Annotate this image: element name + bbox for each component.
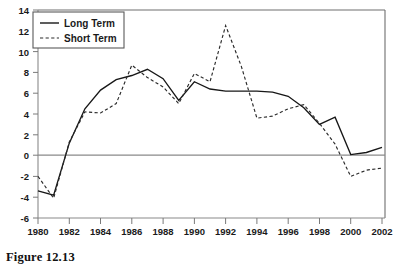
x-axis-ticks bbox=[38, 218, 382, 224]
x-tick-label: 1990 bbox=[184, 226, 205, 237]
y-tick-label: 6 bbox=[24, 88, 29, 99]
y-axis-tick-labels: 14 12 10 8 6 4 2 0 -2 -4 -6 bbox=[18, 5, 29, 224]
line-chart: 14 12 10 8 6 4 2 0 -2 -4 -6 bbox=[0, 0, 403, 248]
chart-legend: Long Term Short Term bbox=[33, 12, 124, 48]
legend-label-long-term: Long Term bbox=[64, 18, 115, 29]
x-tick-label: 1986 bbox=[121, 226, 142, 237]
x-tick-label: 1988 bbox=[153, 226, 174, 237]
y-tick-label: 12 bbox=[18, 26, 29, 37]
x-tick-label: 2000 bbox=[340, 226, 361, 237]
y-tick-label: 0 bbox=[24, 150, 29, 161]
series-line-long-term bbox=[38, 69, 382, 195]
series-line-short-term bbox=[38, 26, 382, 199]
y-tick-label: -4 bbox=[21, 192, 30, 203]
x-tick-label: 1982 bbox=[59, 226, 80, 237]
x-tick-label: 1992 bbox=[215, 226, 236, 237]
y-tick-label: 2 bbox=[24, 130, 29, 141]
figure-caption: Figure 12.13 bbox=[6, 250, 75, 265]
x-tick-label: 1998 bbox=[309, 226, 330, 237]
y-tick-label: 4 bbox=[24, 109, 30, 120]
figure-container: 14 12 10 8 6 4 2 0 -2 -4 -6 bbox=[0, 0, 403, 269]
x-axis-tick-labels: 1980 1982 1984 1986 1988 1990 1992 1994 … bbox=[27, 226, 392, 237]
x-tick-label: 1984 bbox=[90, 226, 112, 237]
y-tick-label: 10 bbox=[18, 47, 29, 58]
x-tick-label: 1980 bbox=[27, 226, 48, 237]
x-tick-label: 2002 bbox=[371, 226, 392, 237]
y-tick-label: -2 bbox=[21, 171, 29, 182]
y-tick-label: 8 bbox=[24, 67, 29, 78]
legend-label-short-term: Short Term bbox=[64, 33, 117, 44]
y-tick-label: 14 bbox=[18, 5, 29, 16]
x-tick-label: 1994 bbox=[246, 226, 268, 237]
y-tick-label: -6 bbox=[21, 213, 29, 224]
x-tick-label: 1996 bbox=[278, 226, 299, 237]
